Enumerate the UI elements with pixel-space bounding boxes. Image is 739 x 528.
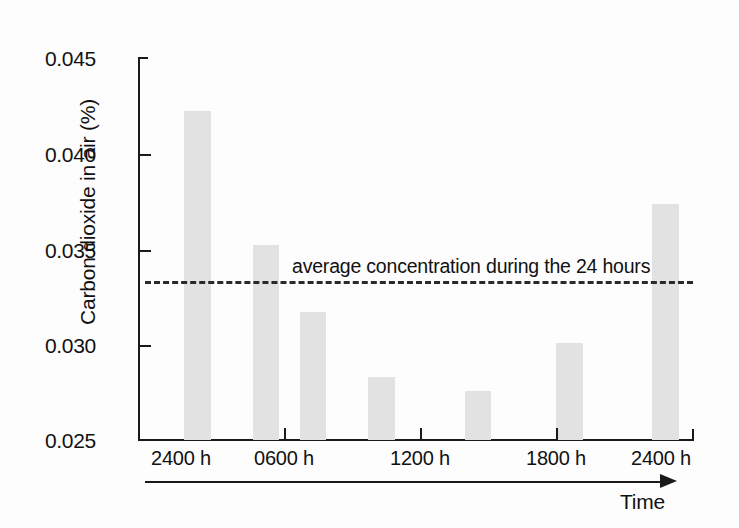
y-axis-top-cap [138,57,148,59]
x-tick-label-2400-start: 2400 h [151,447,211,470]
x-tick-mark-1800 [556,428,558,441]
x-axis-title: Time [620,490,665,514]
bar-3 [300,312,326,440]
x-axis-line [138,439,694,441]
x-tick-label-2400-end: 2400 h [631,447,691,470]
bar-4 [368,377,395,440]
time-arrow-line [145,481,665,483]
y-tick-mark-0030 [138,345,151,347]
chart-screenshot: 0.045 0.040 0.035 0.030 0.025 Carbon dio… [0,0,739,528]
time-arrow-head-icon [660,474,677,488]
average-concentration-label: average concentration during the 24 hour… [292,255,650,278]
y-tick-mark-0040 [138,154,151,156]
bar-7 [652,204,679,440]
y-axis-line [138,57,140,441]
x-tick-mark-0600 [284,428,286,441]
x-tick-mark-1200 [420,428,422,441]
y-tick-mark-0035 [138,250,151,252]
x-tick-label-0600: 0600 h [254,447,314,470]
x-tick-label-1800: 1800 h [526,447,586,470]
bar-1 [184,111,211,440]
bar-2 [253,245,279,440]
x-tick-label-1200: 1200 h [390,447,450,470]
bar-6 [556,343,583,440]
x-axis-right-cap [692,429,694,441]
average-concentration-line [145,281,693,284]
y-axis-title: Carbon dioxide in air (%) [76,62,100,362]
bar-5 [465,391,491,440]
y-tick-label-0025: 0.025 [0,429,96,453]
